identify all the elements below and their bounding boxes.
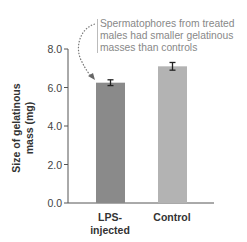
x-tick-label-line: injected [90, 224, 130, 237]
x-tick-label-line: LPS- [90, 211, 130, 224]
annotation-text: Spermatophores from treated males had sm… [100, 18, 247, 54]
annotation-line-3: masses than controls [100, 42, 247, 54]
x-tick-label-line: Control [153, 211, 190, 224]
bars [96, 62, 187, 203]
arrowhead-icon [88, 73, 95, 80]
x-tick-label-control: Control [153, 211, 190, 224]
y-tick-marks [64, 49, 68, 203]
y-tick-label: 6.0 [47, 82, 62, 94]
annotation-line-2: males had smaller gelatinous [100, 30, 247, 42]
x-tick-label-lps: LPS- injected [90, 211, 130, 236]
y-axis-label: Size of gelatinous mass (mg) [10, 73, 36, 183]
y-tick-label: 8.0 [47, 43, 62, 55]
y-axis-label-line-2: mass (mg) [23, 73, 36, 183]
annotation-bracket [97, 19, 98, 53]
y-tick-label: 2.0 [47, 159, 62, 171]
y-tick-label: 4.0 [47, 120, 62, 132]
annotation-line-1: Spermatophores from treated [100, 18, 247, 30]
y-axis-label-line-1: Size of gelatinous [10, 73, 23, 183]
bar-chart: Spermatophores from treated males had sm… [0, 0, 247, 242]
bar-lps-injected [96, 83, 125, 203]
bar-control [158, 66, 187, 203]
annotation-arrow [78, 24, 95, 77]
y-tick-label: 0.0 [47, 197, 62, 209]
